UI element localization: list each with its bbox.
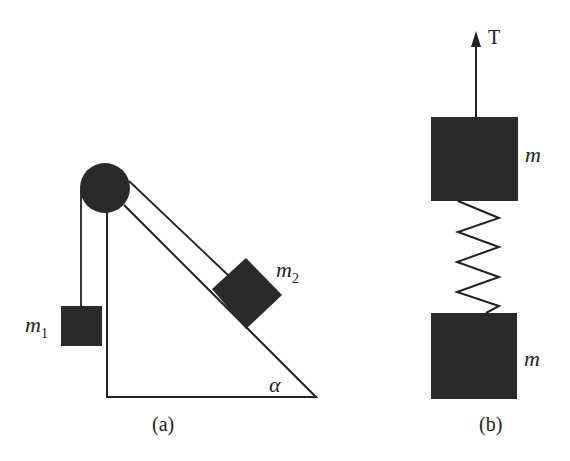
lower-block <box>431 313 517 399</box>
panel-a: m1 m2 α (a) <box>25 163 316 436</box>
spring <box>457 201 499 313</box>
label-m2: m2 <box>276 257 299 286</box>
block-m1 <box>61 306 102 346</box>
caption-b: (b) <box>479 413 502 436</box>
physics-figure: m1 m2 α (a) T m m (b) <box>0 0 570 461</box>
incline-triangle <box>107 205 316 397</box>
force-label-T: T <box>488 26 500 48</box>
string-to-m2 <box>129 181 229 276</box>
arrow-up-icon <box>471 31 481 47</box>
angle-alpha-label: α <box>269 372 281 397</box>
label-lower-m: m <box>524 346 540 371</box>
pulley <box>80 163 130 213</box>
upper-block <box>431 117 518 201</box>
panel-b: T m m (b) <box>431 26 541 436</box>
label-m1: m1 <box>25 312 48 341</box>
label-upper-m: m <box>525 142 541 167</box>
caption-a: (a) <box>152 413 174 436</box>
